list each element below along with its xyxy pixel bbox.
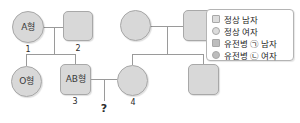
legend-item-affected-male: 유전병 ㉠ 남자	[212, 37, 289, 48]
descent-line-family-b	[167, 26, 168, 54]
individual-2-symbol[interactable]	[63, 11, 93, 41]
legend-item-normal-female: 정상 여자	[212, 25, 289, 36]
legend-label-affected-female: 유전병 ㉡ 여자	[224, 49, 277, 61]
drop-line-individual-4	[132, 54, 133, 65]
individual-1-number: 1	[21, 45, 35, 54]
sibship-line-family-a	[26, 54, 76, 55]
descent-line-family-a	[54, 27, 55, 54]
individual-o-type-label: O형	[19, 77, 33, 86]
individual-3-label: AB형	[66, 75, 85, 84]
individual-1-symbol[interactable]: A형	[12, 11, 44, 43]
drop-line-right-son	[203, 54, 204, 64]
individual-3-symbol[interactable]: AB형	[60, 64, 91, 95]
legend-label-affected-male: 유전병 ㉠ 남자	[224, 37, 277, 49]
drop-line-child-ab	[75, 54, 76, 64]
pedigree-figure: A형 1 2 O형 AB형 3 4 ?	[0, 0, 300, 123]
legend-box: 정상 남자 정상 여자 유전병 ㉠ 남자 유전병 ㉡ 여자	[206, 9, 294, 61]
descent-line-unknown-offspring	[104, 79, 105, 101]
normal-male-square-icon	[212, 15, 220, 23]
sibship-line-family-b	[132, 54, 203, 55]
drop-line-child-o	[26, 54, 27, 66]
affected-female-circle-icon	[212, 51, 220, 59]
individual-o-type-symbol[interactable]: O형	[11, 66, 42, 97]
normal-female-circle-icon	[212, 27, 220, 35]
individual-1-label: A형	[21, 23, 35, 32]
individual-3-number: 3	[68, 97, 82, 106]
legend-item-normal-male: 정상 남자	[212, 13, 289, 24]
legend-item-affected-female: 유전병 ㉡ 여자	[212, 49, 289, 60]
individual-right-son-symbol[interactable]	[188, 64, 219, 95]
legend-label-normal-male: 정상 남자	[224, 13, 258, 25]
individual-right-mother-symbol[interactable]	[120, 10, 151, 41]
individual-4-symbol[interactable]	[117, 65, 148, 96]
affected-male-square-icon	[212, 39, 220, 47]
individual-4-number: 4	[126, 98, 140, 107]
legend-label-normal-female: 정상 여자	[224, 25, 258, 37]
individual-2-number: 2	[71, 44, 85, 53]
unknown-offspring-marker: ?	[99, 102, 109, 115]
